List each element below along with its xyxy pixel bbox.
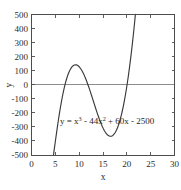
equation-term3: + 60x	[108, 116, 129, 126]
svg-text:y = x3 - 44x2 + 60x - 2500: y = x3 - 44x2 + 60x - 2500	[60, 115, 155, 126]
y-tick-label: 300	[15, 38, 29, 48]
y-tick-label: 100	[15, 66, 29, 76]
x-tick-label: 20	[122, 159, 132, 169]
y-tick-label: 400	[15, 24, 29, 34]
plot-area: 500 400 300 200 100 0 -100 -200 -300 -40…	[0, 0, 181, 190]
y-tick-label: 500	[15, 10, 29, 20]
y-tick-label: -500	[12, 150, 29, 160]
x-tick-label: 0	[29, 159, 34, 169]
y-tick-label: -400	[12, 136, 29, 146]
equation-term4: - 2500	[131, 116, 155, 126]
x-tick-label: 30	[170, 159, 180, 169]
y-axis-title: y	[4, 82, 14, 87]
equation-annotation: y = x3 - 44x2 + 60x - 2500	[60, 115, 155, 126]
x-tick-label: 15	[99, 159, 109, 169]
chart-figure: 500 400 300 200 100 0 -100 -200 -300 -40…	[0, 0, 181, 190]
x-axis-title: x	[101, 172, 106, 182]
x-tick-label: 10	[75, 159, 85, 169]
y-tick-label: 0	[24, 80, 29, 90]
x-tick-label: 25	[146, 159, 156, 169]
x-tick-labels: 0 5 10 15 20 25 30	[29, 159, 179, 169]
y-tick-label: 200	[15, 52, 29, 62]
y-tick-label: -200	[12, 108, 29, 118]
equation-term2-coefficient: 44x	[89, 116, 103, 126]
x-tick-label: 5	[53, 159, 58, 169]
y-tick-labels: 500 400 300 200 100 0 -100 -200 -300 -40…	[12, 10, 29, 161]
y-tick-label: -300	[12, 122, 29, 132]
y-tick-label: -100	[12, 94, 29, 104]
